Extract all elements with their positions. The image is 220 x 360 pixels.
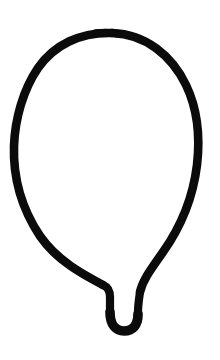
balloon-shoulder-touchup (96, 32, 118, 34)
drawing-canvas[interactable] (0, 0, 220, 360)
balloon-sketch (0, 0, 220, 360)
